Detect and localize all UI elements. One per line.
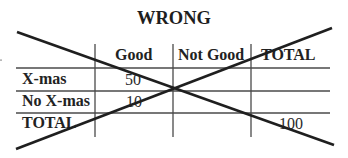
row-label-no-x-mas: No X-mas: [22, 92, 90, 109]
figure-title: WRONG: [137, 8, 211, 28]
scan-artifact: [0, 60, 2, 61]
table-row: X-mas 50: [22, 70, 141, 88]
table-header: Good Not Good TOTAL: [115, 46, 316, 63]
column-header-good: Good: [115, 46, 152, 63]
wrong-table-figure: WRONG Good Not Good TOTAL X-mas 50 No X-…: [0, 0, 348, 158]
column-header-total: TOTAL: [261, 46, 316, 63]
column-header-not-good: Not Good: [178, 46, 244, 63]
row-label-x-mas: X-mas: [22, 70, 66, 87]
figure-svg: WRONG Good Not Good TOTAL X-mas 50 No X-…: [0, 0, 348, 158]
